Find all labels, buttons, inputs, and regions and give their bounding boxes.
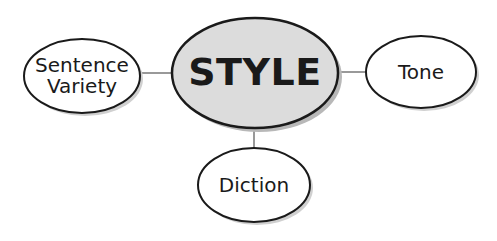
tone-label: Tone [366,36,476,108]
diction-label: Diction [198,148,310,222]
sentence-variety-line1: Sentence [35,55,129,76]
center-node-label: STYLE [172,18,338,128]
sentence-variety-line2: Variety [47,76,117,97]
sentence-variety-label: Sentence Variety [24,39,140,113]
